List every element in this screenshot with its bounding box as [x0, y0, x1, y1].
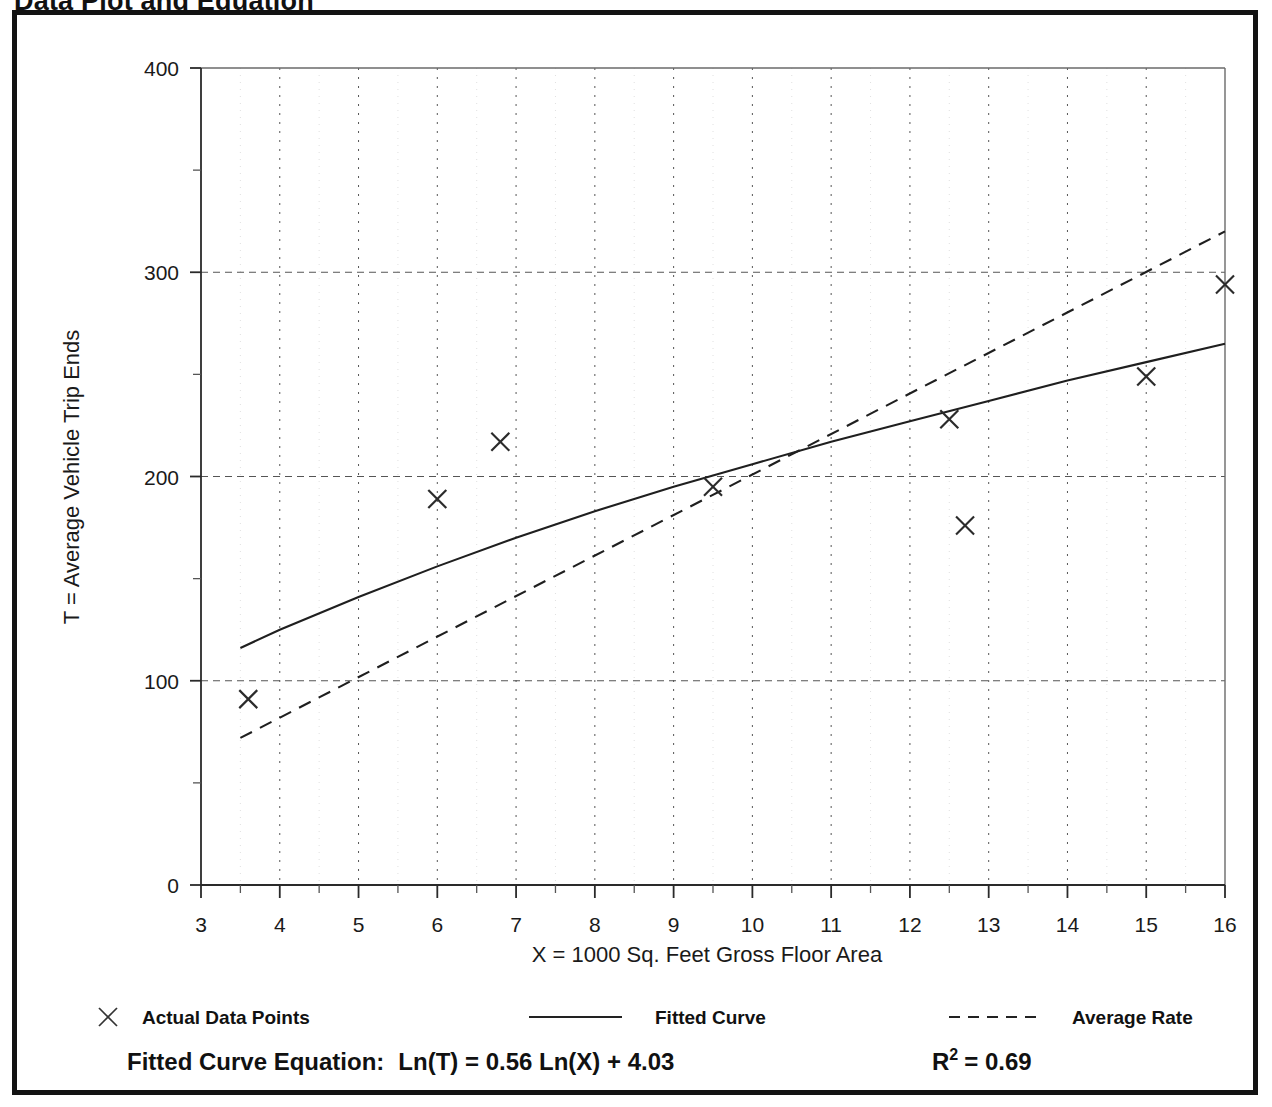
- x-tick-label: 14: [1056, 913, 1080, 936]
- series-actual-data-points: [239, 276, 1234, 709]
- x-axis-tick-labels: 345678910111213141516: [195, 913, 1237, 936]
- x-tick-label: 8: [589, 913, 601, 936]
- y-axis-title: T = Average Vehicle Trip Ends: [59, 330, 84, 625]
- x-tick-label: 10: [741, 913, 764, 936]
- y-tick-label: 100: [144, 670, 179, 693]
- y-tick-label: 0: [167, 874, 179, 897]
- legend-item-fitted-curve[interactable]: Fitted Curve: [529, 1007, 766, 1028]
- chart-legend: Actual Data Points Fitted Curve Average …: [99, 1007, 1193, 1028]
- data-plot-chart: 0100200300400 345678910111213141516 T = …: [17, 15, 1253, 1090]
- equation-label: Fitted Curve Equation:Ln(T) = 0.56 Ln(X)…: [127, 1048, 674, 1075]
- x-axis-ticks: [201, 885, 1225, 898]
- data-point-marker: [704, 478, 722, 496]
- legend-item-actual-data-points[interactable]: Actual Data Points: [99, 1007, 310, 1028]
- series-fitted-curve: [240, 344, 1225, 648]
- y-axis-tick-labels: 0100200300400: [144, 57, 179, 897]
- legend-label-average-rate: Average Rate: [1072, 1007, 1193, 1028]
- x-tick-label: 6: [431, 913, 443, 936]
- x-tick-label: 13: [977, 913, 1000, 936]
- y-tick-label: 400: [144, 57, 179, 80]
- legend-label-fitted-curve: Fitted Curve: [655, 1007, 766, 1028]
- series-average-rate: [240, 231, 1225, 738]
- y-tick-label: 200: [144, 466, 179, 489]
- data-point-marker: [956, 517, 974, 535]
- x-tick-label: 3: [195, 913, 207, 936]
- data-point-marker: [1137, 367, 1155, 385]
- data-point-marker: [239, 690, 257, 708]
- legend-item-average-rate[interactable]: Average Rate: [949, 1007, 1193, 1028]
- x-tick-label: 12: [898, 913, 921, 936]
- x-tick-label: 7: [510, 913, 522, 936]
- legend-label-actual-data-points: Actual Data Points: [142, 1007, 310, 1028]
- data-point-marker: [491, 433, 509, 451]
- y-axis-ticks: [190, 68, 201, 885]
- chart-footer: Fitted Curve Equation:Ln(T) = 0.56 Ln(X)…: [127, 1046, 1032, 1075]
- x-tick-label: 9: [668, 913, 680, 936]
- x-tick-label: 15: [1135, 913, 1158, 936]
- chart-frame: 0100200300400 345678910111213141516 T = …: [12, 10, 1258, 1095]
- x-tick-label: 11: [820, 913, 842, 936]
- x-axis-title: X = 1000 Sq. Feet Gross Floor Area: [532, 942, 883, 967]
- x-tick-label: 5: [353, 913, 365, 936]
- y-tick-label: 300: [144, 261, 179, 284]
- x-tick-label: 4: [274, 913, 286, 936]
- r-squared-value: R2= 0.69: [932, 1046, 1032, 1075]
- x-tick-label: 16: [1213, 913, 1236, 936]
